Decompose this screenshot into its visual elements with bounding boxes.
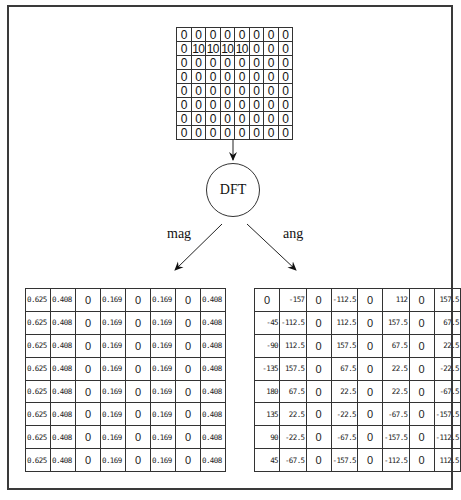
matrix-row: 0.6250.40800.16900.16900.408 xyxy=(26,380,226,403)
matrix-cell: 157.5 xyxy=(280,357,307,380)
matrix-cell: 0 xyxy=(126,357,151,380)
matrix-cell: 0 xyxy=(176,449,201,472)
matrix-cell: 0 xyxy=(76,426,101,449)
matrix-row: 0-1570-112.501120157.5 xyxy=(255,289,461,312)
matrix-cell: 0 xyxy=(358,380,383,403)
matrix-cell: 0.408 xyxy=(201,289,226,312)
matrix-cell: 0.625 xyxy=(26,311,51,334)
matrix-row: 0.6250.40800.16900.16900.408 xyxy=(26,403,226,426)
matrix-cell: -67.5 xyxy=(383,403,410,426)
matrix-cell: 0 xyxy=(358,357,383,380)
matrix-row: 90-22.50-67.50-157.50-112.5 xyxy=(255,426,461,449)
matrix-cell: 0.169 xyxy=(101,449,126,472)
matrix-cell: -22.5 xyxy=(331,403,358,426)
matrix-cell: 0 xyxy=(409,357,434,380)
matrix-cell: 0.625 xyxy=(26,334,51,357)
matrix-cell: 0.169 xyxy=(151,403,176,426)
matrix-cell: 0 xyxy=(306,426,331,449)
matrix-cell: 0.625 xyxy=(26,449,51,472)
matrix-cell: -157 xyxy=(280,289,307,312)
matrix-cell: 0 xyxy=(255,289,280,312)
matrix-cell: 0 xyxy=(409,380,434,403)
matrix-cell: 0 xyxy=(306,334,331,357)
matrix-row: -45-112.50112.50157.5067.5 xyxy=(255,311,461,334)
matrix-cell: -22.5 xyxy=(280,426,307,449)
matrix-cell: 0 xyxy=(358,426,383,449)
matrix-cell: 0.169 xyxy=(101,289,126,312)
matrix-cell: 0 xyxy=(306,403,331,426)
matrix-cell: 0.408 xyxy=(51,311,76,334)
matrix-cell: -67.5 xyxy=(331,426,358,449)
matrix-cell: 0.408 xyxy=(51,380,76,403)
matrix-row: 0.6250.40800.16900.16900.408 xyxy=(26,426,226,449)
matrix-cell: -67.5 xyxy=(434,380,461,403)
matrix-cell: 157.5 xyxy=(383,311,410,334)
matrix-cell: 0.408 xyxy=(201,357,226,380)
magnitude-matrix: 0.6250.40800.16900.16900.4080.6250.40800… xyxy=(25,288,226,472)
matrix-cell: 0 xyxy=(126,311,151,334)
matrix-cell: -157.5 xyxy=(331,449,358,472)
matrix-row: 0.6250.40800.16900.16900.408 xyxy=(26,357,226,380)
matrix-cell: 22.5 xyxy=(280,403,307,426)
matrix-cell: 0.169 xyxy=(101,334,126,357)
matrix-cell: 0.169 xyxy=(101,311,126,334)
matrix-cell: 0 xyxy=(409,311,434,334)
matrix-cell: 0.625 xyxy=(26,289,51,312)
matrix-cell: 0.408 xyxy=(51,289,76,312)
matrix-cell: 112.5 xyxy=(331,311,358,334)
matrix-cell: 22.5 xyxy=(383,357,410,380)
matrix-cell: 0 xyxy=(126,289,151,312)
matrix-cell: 112.5 xyxy=(434,449,461,472)
matrix-cell: -112.5 xyxy=(434,426,461,449)
matrix-cell: 67.5 xyxy=(331,357,358,380)
matrix-cell: 135 xyxy=(255,403,280,426)
matrix-row: -90112.50157.5067.5022.5 xyxy=(255,334,461,357)
matrix-cell: 22.5 xyxy=(383,380,410,403)
matrix-cell: 0.169 xyxy=(151,426,176,449)
matrix-cell: 0.408 xyxy=(201,449,226,472)
matrix-cell: 0 xyxy=(409,449,434,472)
matrix-cell: 0 xyxy=(126,449,151,472)
matrix-row: 0.6250.40800.16900.16900.408 xyxy=(26,449,226,472)
matrix-cell: 0 xyxy=(126,334,151,357)
matrix-row: 18067.5022.5022.50-67.5 xyxy=(255,380,461,403)
matrix-cell: 180 xyxy=(255,380,280,403)
matrix-cell: 0 xyxy=(306,449,331,472)
matrix-cell: 0 xyxy=(358,449,383,472)
matrix-cell: 0 xyxy=(176,426,201,449)
matrix-cell: 0 xyxy=(176,403,201,426)
matrix-cell: 0 xyxy=(409,426,434,449)
matrix-cell: 0 xyxy=(358,403,383,426)
dft-node: DFT xyxy=(206,163,260,217)
matrix-cell: 0.169 xyxy=(101,403,126,426)
matrix-cell: 0.169 xyxy=(101,380,126,403)
matrix-row: -135157.5067.5022.50-22.5 xyxy=(255,357,461,380)
matrix-cell: 0 xyxy=(409,403,434,426)
matrix-cell: 0 xyxy=(358,311,383,334)
matrix-cell: 0 xyxy=(76,449,101,472)
matrix-row: 0.6250.40800.16900.16900.408 xyxy=(26,334,226,357)
matrix-cell: 0 xyxy=(76,357,101,380)
matrix-cell: -90 xyxy=(255,334,280,357)
matrix-cell: 0.169 xyxy=(151,380,176,403)
matrix-cell: 0 xyxy=(76,380,101,403)
matrix-cell: 0.408 xyxy=(51,449,76,472)
matrix-cell: 0 xyxy=(176,334,201,357)
mag-label: mag xyxy=(167,226,191,242)
matrix-cell: 90 xyxy=(255,426,280,449)
matrix-cell: 0 xyxy=(306,289,331,312)
matrix-cell: 0.625 xyxy=(26,403,51,426)
matrix-cell: 0 xyxy=(358,334,383,357)
matrix-cell: 0.169 xyxy=(151,334,176,357)
matrix-cell: 0.408 xyxy=(201,380,226,403)
matrix-cell: 0.408 xyxy=(201,403,226,426)
matrix-cell: -157.5 xyxy=(383,426,410,449)
matrix-cell: -135 xyxy=(255,357,280,380)
matrix-cell: 0.625 xyxy=(26,380,51,403)
matrix-cell: -112.5 xyxy=(331,289,358,312)
matrix-cell: 0.169 xyxy=(151,449,176,472)
matrix-cell: 67.5 xyxy=(383,334,410,357)
matrix-cell: -22.5 xyxy=(434,357,461,380)
matrix-row: 0.6250.40800.16900.16900.408 xyxy=(26,311,226,334)
matrix-cell: 0.408 xyxy=(201,311,226,334)
